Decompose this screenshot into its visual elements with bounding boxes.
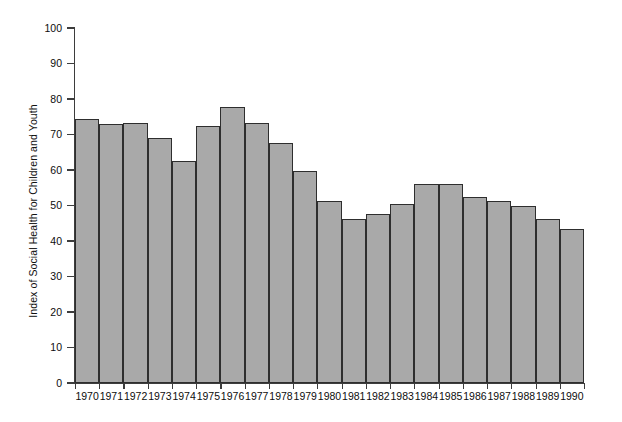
x-axis-tick	[463, 384, 464, 389]
x-axis-tick-label: 1971	[99, 391, 123, 402]
x-axis-tick	[414, 384, 415, 389]
bar	[196, 126, 220, 383]
y-axis-tick-label: 20	[22, 307, 62, 318]
plot-area	[75, 28, 584, 383]
y-axis-tick	[67, 276, 75, 277]
x-axis-tick	[269, 384, 270, 389]
x-axis-tick	[366, 384, 367, 389]
x-axis-tick-label: 1986	[463, 391, 487, 402]
x-axis-tick-label: 1975	[196, 391, 220, 402]
x-axis-tick	[390, 384, 391, 389]
x-axis-tick-label: 1979	[293, 391, 317, 402]
y-axis-tick	[67, 169, 75, 170]
y-axis-tick	[67, 27, 75, 28]
x-axis-tick-label: 1977	[245, 391, 269, 402]
y-axis-tick-label: 50	[22, 200, 62, 211]
y-axis-tick	[67, 382, 75, 383]
bar	[148, 138, 172, 383]
bar	[293, 171, 317, 383]
y-axis-tick	[67, 205, 75, 206]
x-axis-tick	[560, 384, 561, 389]
x-axis-tick	[487, 384, 488, 389]
bar	[511, 206, 535, 384]
y-axis-tick-label: 0	[22, 378, 62, 389]
bar	[439, 184, 463, 383]
bar	[463, 197, 487, 383]
x-axis-tick-label: 1988	[511, 391, 535, 402]
x-axis-tick	[99, 384, 100, 389]
x-axis-tick-label: 1978	[269, 391, 293, 402]
y-axis-tick	[67, 134, 75, 135]
x-axis-tick	[536, 384, 537, 389]
x-axis-tick	[317, 384, 318, 389]
x-axis-tick	[439, 384, 440, 389]
x-axis-tick	[220, 384, 221, 389]
x-axis-tick-label: 1984	[414, 391, 438, 402]
bar	[269, 143, 293, 383]
x-axis-tick	[148, 384, 149, 389]
x-axis-tick-label: 1990	[560, 391, 584, 402]
bar	[220, 107, 244, 383]
x-axis-tick-label: 1976	[220, 391, 244, 402]
bar	[560, 229, 584, 383]
y-axis-tick-label: 40	[22, 236, 62, 247]
y-axis-tick	[67, 311, 75, 312]
y-axis-tick	[67, 240, 75, 241]
bar	[317, 201, 341, 383]
x-axis-tick	[584, 384, 585, 389]
x-axis-tick-label: 1973	[148, 391, 172, 402]
x-axis-tick-label: 1987	[487, 391, 511, 402]
x-axis-tick-label: 1982	[366, 391, 390, 402]
bar	[99, 124, 123, 383]
bar	[123, 123, 147, 383]
y-axis-tick-label: 90	[22, 58, 62, 69]
bar	[536, 219, 560, 383]
bar	[390, 204, 414, 383]
x-axis-tick-label: 1985	[439, 391, 463, 402]
x-axis-tick	[342, 384, 343, 389]
x-axis-tick-label: 1980	[317, 391, 341, 402]
x-axis-tick-label: 1972	[123, 391, 147, 402]
x-axis-tick-label: 1989	[536, 391, 560, 402]
y-axis-tick	[67, 63, 75, 64]
x-axis-tick-label: 1983	[390, 391, 414, 402]
x-axis-tick	[172, 384, 173, 389]
bar	[487, 201, 511, 383]
x-axis-tick	[123, 384, 124, 389]
y-axis-tick-label: 70	[22, 129, 62, 140]
bar	[366, 214, 390, 383]
y-axis-tick	[67, 98, 75, 99]
y-axis-tick-label: 30	[22, 271, 62, 282]
bar	[172, 161, 196, 383]
y-axis-tick-label: 10	[22, 342, 62, 353]
x-axis-tick	[293, 384, 294, 389]
bar-chart: Index of Social Health for Children and …	[0, 0, 622, 422]
x-axis-tick	[245, 384, 246, 389]
bar	[75, 119, 99, 383]
x-axis-tick	[196, 384, 197, 389]
y-axis-tick	[67, 347, 75, 348]
x-axis-tick	[75, 384, 76, 389]
x-axis-tick-label: 1970	[75, 391, 99, 402]
bar	[342, 219, 366, 383]
bar	[414, 184, 438, 383]
y-axis-tick-label: 80	[22, 94, 62, 105]
x-axis-tick-label: 1974	[172, 391, 196, 402]
x-axis-tick	[511, 384, 512, 389]
x-axis-tick-label: 1981	[342, 391, 366, 402]
y-axis-tick-label: 60	[22, 165, 62, 176]
bar	[245, 123, 269, 383]
y-axis-tick-label: 100	[22, 23, 62, 34]
